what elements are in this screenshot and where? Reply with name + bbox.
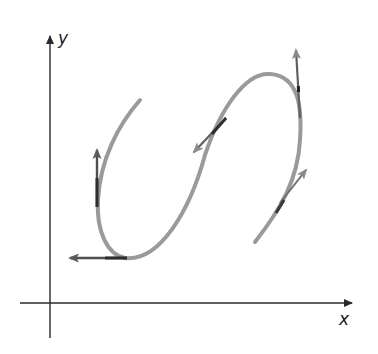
figure: y x bbox=[0, 0, 378, 354]
tangent-vectors bbox=[70, 50, 306, 258]
x-axis-label: x bbox=[339, 311, 349, 328]
axes bbox=[20, 36, 352, 338]
diagram-canvas bbox=[0, 0, 378, 354]
y-axis-label: y bbox=[58, 30, 68, 47]
parametric-curve bbox=[98, 74, 301, 258]
